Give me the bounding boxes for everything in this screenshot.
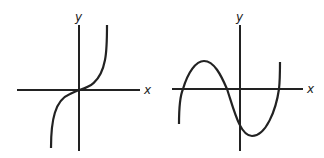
panel-right: y x (172, 10, 315, 151)
x-label-left: x (143, 83, 152, 97)
figure: y x y x (0, 0, 324, 158)
y-label-left: y (74, 10, 83, 24)
curve-right (179, 61, 280, 136)
y-label-right: y (235, 10, 244, 24)
panel-left: y x (17, 10, 152, 151)
x-label-right: x (306, 82, 315, 96)
